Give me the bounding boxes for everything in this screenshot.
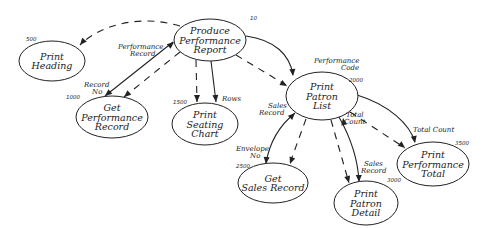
node-number: 10 — [250, 15, 257, 21]
flow-produce-patronlist-solid — [246, 36, 296, 76]
node-getsales: GetSales Record2500 — [236, 163, 308, 203]
node-number: 3500 — [455, 140, 469, 146]
arrowhead-icon — [78, 38, 87, 47]
flow-label: Count — [344, 118, 366, 126]
node-label: List — [312, 100, 331, 111]
node-heading: PrintHeading500 — [19, 36, 85, 81]
flow-label: Rows — [221, 95, 241, 103]
arrowhead-icon — [212, 95, 219, 102]
flow-label: Record — [360, 167, 387, 175]
flow-label: Code — [341, 64, 359, 72]
node-number: 2500 — [236, 163, 250, 169]
node-label: Chart — [191, 128, 219, 139]
flow-patronlist-detail-dashed — [331, 120, 352, 184]
node-number: 2000 — [349, 77, 363, 83]
arrowhead-icon — [289, 69, 296, 76]
flow-line — [290, 119, 306, 163]
flow-label: No — [249, 152, 260, 160]
arrowhead-icon — [287, 156, 295, 165]
node-seating: PrintSeatingChart1500 — [172, 99, 238, 145]
flow-line — [331, 120, 349, 183]
node-label: Report — [193, 44, 227, 55]
structure-chart-diagram: ProducePerformanceReport10PrintHeading50… — [0, 0, 485, 228]
flow-line — [266, 113, 295, 163]
arrowhead-icon — [344, 175, 352, 183]
node-label: Record — [94, 121, 129, 132]
flow-line — [80, 21, 180, 45]
flow-patronlist-getsales-dashed — [287, 119, 306, 165]
flow-label: Record — [258, 109, 285, 117]
node-number: 500 — [26, 36, 37, 42]
arrowhead-icon — [194, 95, 200, 102]
flow-produce-patronlist-dashed — [236, 55, 289, 89]
flow-produce-seating-solid — [211, 61, 219, 102]
node-number: 1500 — [173, 99, 187, 105]
arrowhead-icon — [398, 141, 407, 150]
flow-produce-seating-dashed — [194, 60, 200, 102]
node-label: Detail — [351, 207, 381, 218]
flow-label: Record — [129, 50, 156, 58]
flow-line — [339, 117, 359, 182]
nodes-layer: ProducePerformanceReport10PrintHeading50… — [19, 15, 469, 225]
flow-label: Total Count — [413, 126, 454, 134]
node-patrondetail: PrintPatronDetail3000 — [334, 177, 401, 225]
node-number: 3000 — [387, 177, 401, 183]
node-label: Sales Record — [241, 182, 304, 193]
node-label: Total — [421, 168, 445, 179]
flow-line — [246, 36, 293, 75]
arrowhead-icon — [279, 80, 288, 89]
node-label: Heading — [31, 60, 73, 71]
node-perftotal: PrintPerformanceTotal3500 — [397, 140, 469, 186]
flow-label: No — [91, 88, 102, 96]
node-number: 1000 — [66, 94, 80, 100]
flow-line — [236, 55, 286, 85]
node-produce: ProducePerformanceReport10 — [174, 15, 257, 61]
node-getperf: GetPerformanceRecord1000 — [66, 94, 148, 138]
flow-patronlist-detail-solid — [339, 117, 362, 182]
arrowhead-icon — [411, 136, 418, 144]
